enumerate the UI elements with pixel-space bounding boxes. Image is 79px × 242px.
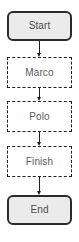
arrow-shaft [39, 177, 40, 191]
arrow-shaft [39, 88, 40, 97]
flow-arrow-marco-to-polo [38, 88, 41, 101]
flow-node-marco[interactable]: Marco [7, 57, 72, 88]
flow-node-end-label: End [30, 205, 48, 215]
flow-node-marco-label: Marco [25, 68, 53, 78]
flow-arrow-polo-to-finish [38, 132, 41, 146]
flow-node-polo[interactable]: Polo [7, 101, 72, 132]
flow-node-start[interactable]: Start [7, 11, 72, 41]
flow-node-start-label: Start [29, 21, 51, 31]
flow-node-finish-label: Finish [26, 157, 53, 167]
arrow-shaft [39, 132, 40, 142]
flow-node-finish[interactable]: Finish [7, 146, 72, 177]
flowchart-diagram: Start Marco Polo Finish End [0, 0, 79, 242]
flow-node-end[interactable]: End [7, 195, 72, 225]
flow-node-polo-label: Polo [29, 112, 49, 122]
flow-arrow-start-to-marco [38, 41, 41, 57]
flow-arrow-finish-to-end [38, 177, 41, 195]
arrow-shaft [39, 41, 40, 53]
